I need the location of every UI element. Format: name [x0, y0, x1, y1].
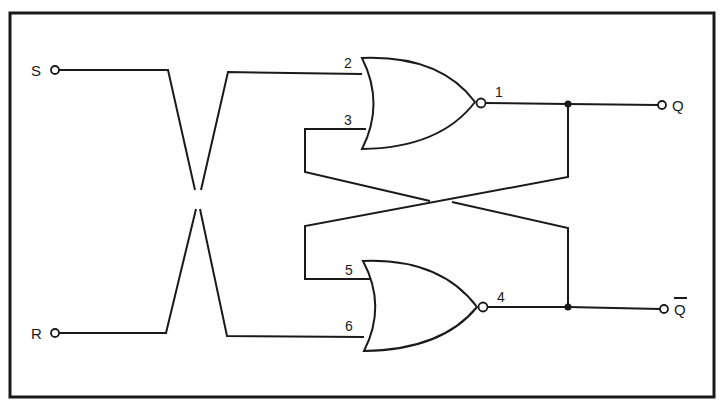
s-terminal	[51, 66, 59, 74]
sr-latch-diagram: S R Q Q 2 3 1 5 6 4	[0, 0, 720, 407]
r-wire-right-to-pin6	[200, 209, 364, 337]
pin-5-label: 5	[345, 262, 353, 278]
q-label: Q	[672, 97, 684, 114]
nor-gate-upper-bubble	[477, 99, 486, 108]
input-wiring	[59, 70, 364, 337]
nor-gate-upper	[362, 58, 658, 149]
nor-gate-lower-body	[363, 261, 477, 351]
q-junction-dot	[565, 101, 572, 108]
qbar-terminal	[660, 305, 668, 313]
r-label: R	[31, 325, 42, 342]
q-output-wire-b	[568, 104, 658, 105]
q-output-wire-a	[486, 103, 569, 104]
nor-gate-lower	[363, 261, 660, 351]
s-wire-right-to-pin2	[201, 72, 362, 190]
s-wire-left	[59, 70, 195, 190]
qbar-output-wire-b	[568, 307, 660, 309]
pin-2-label: 2	[344, 55, 352, 71]
qbar-junction-dot	[565, 304, 572, 311]
pin-4-label: 4	[497, 289, 505, 305]
nor-gate-lower-bubble	[479, 303, 488, 312]
s-label: S	[31, 62, 41, 79]
pin-1-label: 1	[495, 84, 503, 100]
r-terminal	[51, 329, 59, 337]
pin-3-label: 3	[344, 112, 352, 128]
q-terminal	[658, 101, 666, 109]
pin-6-label: 6	[345, 318, 353, 334]
r-wire-left	[59, 209, 196, 333]
feedback-pin3-wire-b	[452, 202, 568, 307]
qbar-label: Q	[674, 301, 686, 318]
nor-gate-upper-body	[362, 58, 475, 149]
